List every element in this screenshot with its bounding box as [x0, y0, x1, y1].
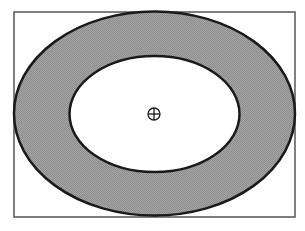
annulus-diagram	[0, 0, 305, 231]
crosshair-circle-icon	[148, 108, 160, 120]
